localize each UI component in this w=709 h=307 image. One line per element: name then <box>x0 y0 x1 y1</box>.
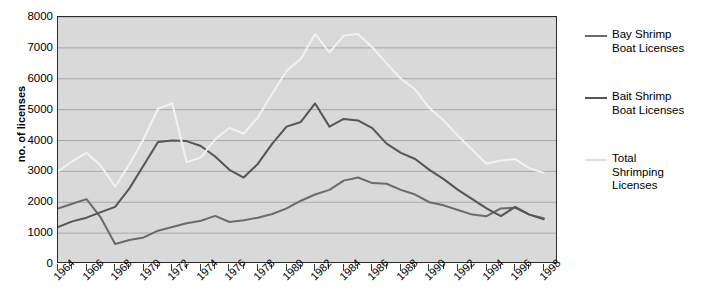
series-line <box>58 103 544 227</box>
series-canvas <box>58 17 557 263</box>
legend-label: Total Shrimping Licenses <box>612 152 664 193</box>
y-tick-label: 5000 <box>13 104 53 114</box>
legend-line-swatch <box>585 97 607 99</box>
legend-line-swatch <box>585 35 607 37</box>
y-tick-label: 2000 <box>13 196 53 206</box>
y-tick-label: 7000 <box>13 42 53 52</box>
legend-label: Bay Shrimp Boat Licenses <box>612 28 684 55</box>
y-tick-label: 6000 <box>13 73 53 83</box>
x-axis-tick-labels: 1964196619681970197219741976197819801982… <box>0 264 709 307</box>
y-tick-label: 3000 <box>13 165 53 175</box>
plot-area <box>57 16 557 263</box>
chart-figure: no. of licenses 010002000300040005000600… <box>0 0 709 307</box>
y-tick-label: 4000 <box>13 135 53 145</box>
y-tick-label: 8000 <box>13 11 53 21</box>
legend-line-swatch <box>585 159 607 161</box>
y-tick-label: 1000 <box>13 227 53 237</box>
legend-label: Bait Shrimp Boat Licenses <box>612 90 684 117</box>
series-line <box>58 34 544 187</box>
y-axis-tick-labels: 010002000300040005000600070008000 <box>9 0 53 307</box>
x-tick-label: 1964 <box>51 257 77 283</box>
